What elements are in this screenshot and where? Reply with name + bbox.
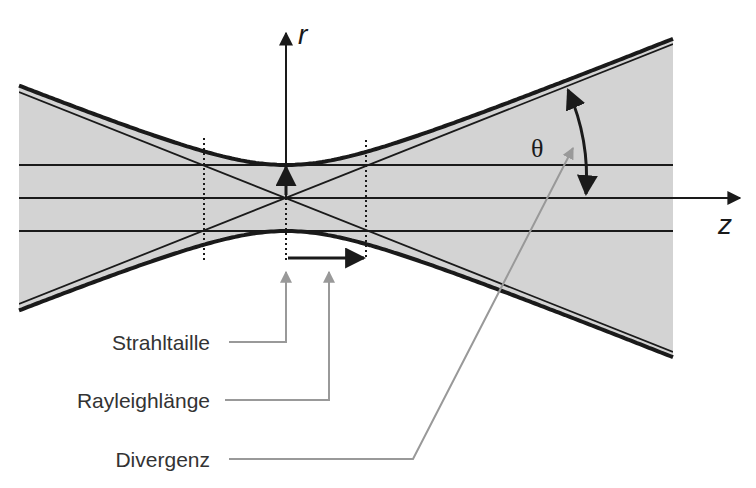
gaussian-beam-diagram: r z θ Strahltaille Rayleighlänge Diverge… bbox=[0, 0, 756, 488]
callout-line-rayleigh-length bbox=[225, 272, 329, 400]
r-axis-label: r bbox=[298, 19, 309, 50]
callout-label-rayleigh-length: Rayleighlänge bbox=[77, 389, 210, 412]
callout-label-divergence: Divergenz bbox=[115, 448, 210, 471]
callout-line-beam-waist bbox=[229, 272, 286, 342]
callout-label-beam-waist: Strahltaille bbox=[112, 331, 210, 354]
theta-symbol: θ bbox=[531, 134, 543, 163]
z-axis-label: z bbox=[717, 209, 732, 240]
